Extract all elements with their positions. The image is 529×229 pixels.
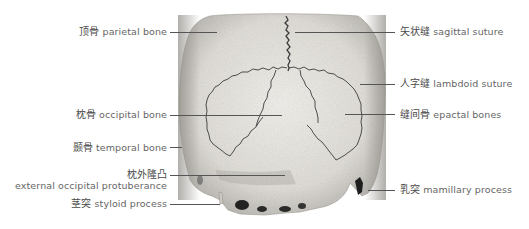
label-external-occipital-protuberance: 枕外隆凸 external occipital protuberance — [15, 169, 167, 191]
label-en: styloid process — [95, 198, 167, 209]
label-zh: 顶骨 — [79, 26, 99, 37]
label-en: temporal bone — [96, 142, 167, 153]
label-zh: 枕外隆凸 — [15, 169, 167, 180]
leader-parietal — [170, 32, 217, 33]
leader-mamillary — [368, 190, 395, 191]
leader-sagittal — [295, 32, 395, 33]
leader-occipital — [170, 115, 282, 116]
label-occipital-bone: 枕骨occipital bone — [76, 109, 167, 120]
label-zh: 乳突 — [400, 184, 420, 195]
label-en: occipital bone — [99, 109, 167, 120]
label-lambdoid-suture: 人字缝lambdoid suture — [400, 78, 512, 89]
label-styloid-process: 茎突styloid process — [71, 198, 167, 209]
label-zh: 人字缝 — [400, 78, 430, 89]
label-en: external occipital protuberance — [15, 180, 167, 191]
label-zh: 矢状缝 — [400, 26, 430, 37]
label-en: epactal bones — [433, 109, 501, 120]
label-epactal-bones: 缝间骨epactal bones — [400, 109, 501, 120]
leader-ext-occ-protuberance — [170, 175, 285, 176]
label-zh: 枕骨 — [76, 109, 96, 120]
label-sagittal-suture: 矢状缝sagittal suture — [400, 26, 503, 37]
leader-epactal — [345, 114, 395, 115]
label-parietal-bone: 顶骨parietal bone — [79, 26, 167, 37]
label-en: sagittal suture — [433, 26, 503, 37]
label-temporal-bone: 颞骨temporal bone — [73, 142, 167, 153]
skull-diagram: 顶骨parietal bone 枕骨occipital bone 颞骨tempo… — [0, 0, 529, 229]
label-mamillary-process: 乳突mamillary process — [400, 184, 512, 195]
label-en: lambdoid suture — [433, 78, 512, 89]
label-en: mamillary process — [423, 184, 512, 195]
label-en: parietal bone — [103, 26, 167, 37]
leader-styloid — [170, 204, 220, 205]
label-zh: 颞骨 — [73, 142, 93, 153]
label-zh: 缝间骨 — [400, 109, 430, 120]
label-zh: 茎突 — [71, 198, 91, 209]
leader-lambdoid — [360, 84, 395, 85]
leader-temporal — [170, 147, 182, 148]
